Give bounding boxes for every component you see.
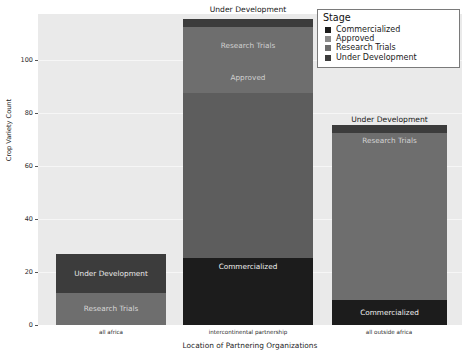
y-tick-mark <box>35 113 38 114</box>
legend-item-research-trials[interactable]: Research Trials <box>323 44 454 52</box>
legend-swatch-icon <box>325 27 331 33</box>
legend-swatch-icon <box>325 45 331 51</box>
chart-root: Under Development Research Trials Under … <box>0 0 469 356</box>
legend-swatch-icon <box>325 55 331 61</box>
y-tick-mark <box>35 325 38 326</box>
legend: Stage Commercialized Approved Research T… <box>317 9 460 68</box>
x-axis-title: Location of Partnering Organizations <box>38 341 462 350</box>
y-tick-label: 0 <box>0 321 33 329</box>
x-tick-label-intercontinental-partnership: intercontinental partnership <box>209 329 288 335</box>
legend-item-label: Approved <box>336 35 374 43</box>
legend-item-label: Commercialized <box>336 26 400 34</box>
legend-item-commercialized[interactable]: Commercialized <box>323 26 454 34</box>
legend-item-label: Under Development <box>336 54 417 62</box>
legend-item-label: Research Trials <box>336 44 396 52</box>
y-tick-label: 100 <box>0 56 33 64</box>
y-axis-title: Crop Variety Count <box>5 85 13 175</box>
y-tick-label: 20 <box>0 268 33 276</box>
legend-item-under-development[interactable]: Under Development <box>323 54 454 62</box>
y-tick-mark <box>35 219 38 220</box>
legend-swatch-icon <box>325 36 331 42</box>
legend-title: Stage <box>323 13 454 24</box>
y-tick-mark <box>35 60 38 61</box>
legend-item-approved[interactable]: Approved <box>323 35 454 43</box>
x-tick-label-all-africa: all africa <box>99 329 123 335</box>
y-tick-label: 40 <box>0 215 33 223</box>
x-tick-label-all-outside-africa: all outside africa <box>366 329 412 335</box>
y-tick-mark <box>35 166 38 167</box>
y-tick-mark <box>35 272 38 273</box>
